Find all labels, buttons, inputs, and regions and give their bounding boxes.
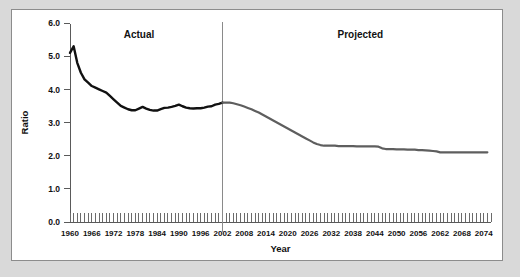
- y-tick-label: 3.0: [48, 118, 60, 128]
- x-tick-label: 2068: [453, 229, 471, 238]
- y-tick-label: 5.0: [48, 51, 60, 61]
- x-tick-label: 2008: [235, 229, 253, 238]
- x-tick-label: 1972: [105, 229, 123, 238]
- y-axis-title: Ratio: [19, 110, 30, 134]
- x-tick-label: 2050: [388, 229, 406, 238]
- x-tick-label: 2044: [366, 229, 384, 238]
- x-tick-label: 2032: [322, 229, 340, 238]
- x-tick-label: 2074: [475, 229, 493, 238]
- chart-panel: 0.01.02.03.04.05.06.0Ratio19601966197219…: [11, 9, 503, 261]
- x-tick-label: 1960: [61, 229, 79, 238]
- x-tick-label: 1996: [192, 229, 210, 238]
- x-tick-label: 2020: [279, 229, 297, 238]
- y-tick-label: 2.0: [48, 151, 60, 161]
- x-tick-label: 2062: [431, 229, 449, 238]
- x-tick-label: 1990: [170, 229, 188, 238]
- x-tick-label: 2038: [344, 229, 362, 238]
- y-tick-label: 6.0: [48, 18, 60, 28]
- x-tick-label: 2014: [257, 229, 275, 238]
- series-line-actual: [70, 46, 222, 110]
- ratio-line-chart: 0.01.02.03.04.05.06.0Ratio19601966197219…: [12, 10, 502, 260]
- x-tick-label: 2026: [301, 229, 319, 238]
- y-tick-label: 0.0: [48, 217, 60, 227]
- x-axis-title: Year: [270, 243, 290, 254]
- x-tick-label: 1966: [83, 229, 101, 238]
- series-line-projected: [222, 103, 487, 153]
- y-tick-label: 4.0: [48, 85, 60, 95]
- page-root: 0.01.02.03.04.05.06.0Ratio19601966197219…: [0, 0, 520, 277]
- x-tick-label: 2056: [410, 229, 428, 238]
- y-tick-label: 1.0: [48, 184, 60, 194]
- region-label-actual: Actual: [124, 29, 155, 40]
- x-tick-label: 1978: [126, 229, 144, 238]
- region-label-projected: Projected: [338, 29, 384, 40]
- x-tick-label: 1984: [148, 229, 166, 238]
